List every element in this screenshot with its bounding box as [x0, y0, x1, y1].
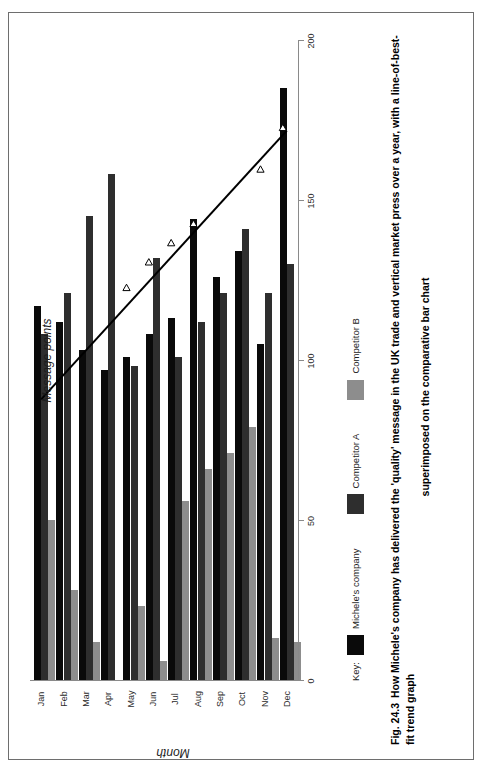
- bar-group: [231, 40, 253, 680]
- bar-feb-series1: [64, 293, 71, 680]
- x-tick: [298, 40, 304, 41]
- y-tick-label-jul: Jul: [170, 685, 180, 713]
- bar-may-series1: [131, 366, 138, 680]
- figure-caption: Fig. 24.3How Michele's company has deliv…: [388, 29, 434, 745]
- bar-group: [276, 40, 298, 680]
- y-tick-label-dec: Dec: [282, 685, 292, 713]
- caption-line-2: superimposed on the comparative bar char…: [418, 29, 433, 745]
- legend-swatch-1: [347, 494, 364, 514]
- y-tick-label-may: May: [126, 685, 136, 713]
- rotated-figure: Month 200150100500-50 Message points Jan…: [16, 14, 471, 759]
- legend-label-0: Michele's company: [350, 548, 361, 629]
- bar-mar-series0: [79, 350, 86, 680]
- legend-label-1: Competitor A: [350, 434, 361, 489]
- bar-group: [97, 40, 119, 680]
- legend-item-0: Michele's company: [347, 548, 364, 655]
- y-tick-label-sep: Sep: [215, 685, 225, 713]
- bar-feb-series0: [56, 322, 63, 680]
- bar-oct-series0: [235, 251, 242, 680]
- legend-item-2: Competitor B: [347, 318, 364, 399]
- y-tick-label-oct: Oct: [237, 685, 247, 713]
- y-tick-label-apr: Apr: [103, 685, 113, 713]
- legend-label-2: Competitor B: [350, 318, 361, 373]
- bar-jul-series0: [168, 318, 175, 680]
- x-tick-label-50: 50: [306, 516, 316, 526]
- x-axis-line: 200150100500-50: [298, 40, 299, 681]
- bar-group: [119, 40, 141, 680]
- bar-group: [186, 40, 208, 680]
- bar-mar-series1: [86, 216, 93, 680]
- y-tick-label-aug: Aug: [193, 685, 203, 713]
- y-tick-label-nov: Nov: [260, 685, 270, 713]
- bar-group: [142, 40, 164, 680]
- x-axis-title: Message points: [40, 40, 54, 681]
- bar-apr-series0: [101, 370, 108, 680]
- bar-nov-series0: [257, 344, 264, 680]
- x-tick-label-150: 150: [306, 193, 316, 208]
- y-axis-title: Month: [156, 746, 189, 760]
- bar-jun-series0: [146, 334, 153, 680]
- x-tick: [298, 360, 304, 361]
- x-tick: [298, 520, 304, 521]
- y-tick-label-feb: Feb: [59, 685, 69, 713]
- caption-line-1: How Michele's company has delivered the …: [389, 35, 416, 745]
- figure-page: Month 200150100500-50 Message points Jan…: [0, 0, 487, 773]
- bar-jun-series1: [153, 258, 160, 680]
- bar-chart: Month 200150100500-50 Message points Jan…: [16, 14, 334, 759]
- bar-aug-series1: [198, 322, 205, 680]
- bar-group: [209, 40, 231, 680]
- bar-aug-series0: [190, 219, 197, 680]
- bar-dec-series0: [280, 88, 287, 680]
- bar-group: [75, 40, 97, 680]
- figure-number: Fig. 24.3: [389, 703, 401, 745]
- bar-sep-series0: [213, 277, 220, 680]
- x-tick: [298, 680, 304, 681]
- plot-area: [30, 40, 298, 681]
- bar-group: [253, 40, 275, 680]
- legend: Key: Michele's companyCompetitor ACompet…: [342, 284, 368, 681]
- bar-oct-series1: [242, 229, 249, 680]
- bar-group: [52, 40, 74, 680]
- y-tick-label-mar: Mar: [81, 685, 91, 713]
- bar-group: [164, 40, 186, 680]
- x-tick-label-200: 200: [306, 33, 316, 48]
- x-tick: [298, 200, 304, 201]
- legend-key-label: Key:: [350, 662, 361, 681]
- bar-dec-series1: [287, 264, 294, 680]
- x-tick-label-100: 100: [306, 353, 316, 368]
- legend-swatch-0: [347, 635, 364, 655]
- legend-item-1: Competitor A: [347, 434, 364, 515]
- y-tick-label-jun: Jun: [148, 685, 158, 713]
- x-tick-label-0: 0: [306, 678, 316, 683]
- bar-apr-series1: [108, 174, 115, 680]
- bar-sep-series1: [220, 293, 227, 680]
- bar-may-series0: [123, 357, 130, 680]
- bar-nov-series1: [265, 293, 272, 680]
- bar-jul-series1: [175, 357, 182, 680]
- y-tick-label-jan: Jan: [36, 685, 46, 713]
- legend-swatch-2: [347, 380, 364, 400]
